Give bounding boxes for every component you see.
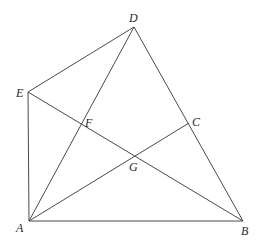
- geometry-diagram: D E F C G A B: [0, 0, 261, 242]
- label-B: B: [241, 224, 249, 238]
- segment-DB: [134, 27, 243, 221]
- label-A: A: [15, 221, 24, 235]
- segments: [28, 27, 243, 221]
- label-F: F: [84, 116, 93, 130]
- label-G: G: [129, 160, 138, 174]
- label-C: C: [192, 115, 201, 129]
- label-D: D: [128, 11, 138, 25]
- segment-AC: [29, 123, 189, 221]
- label-E: E: [15, 86, 24, 100]
- segment-EA: [28, 92, 29, 221]
- segment-DE: [28, 27, 134, 92]
